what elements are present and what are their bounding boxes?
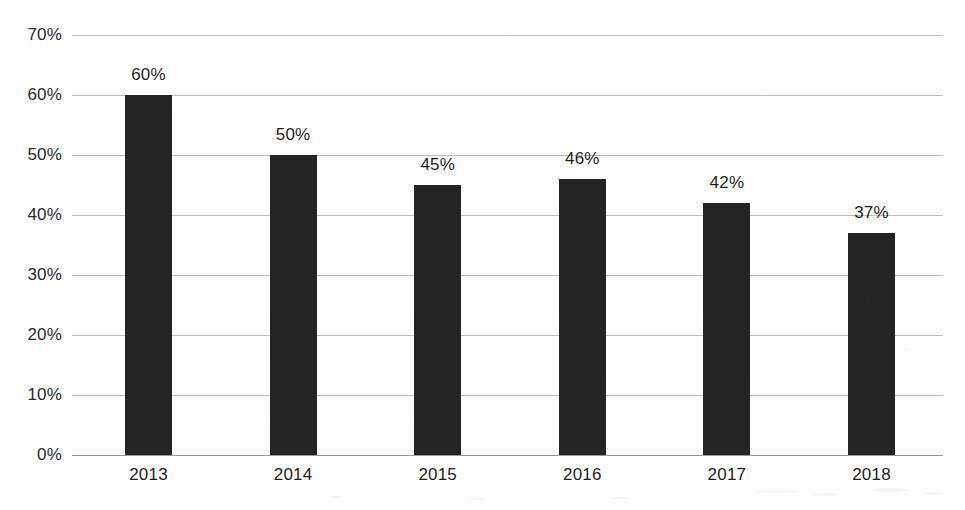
bar-value-label-2015: 45% — [420, 155, 455, 175]
scan-speckle — [874, 488, 908, 492]
bar-value-label-2016: 46% — [565, 149, 600, 169]
chart-page: 0%10%20%30%40%50%60%70% 60%50%45%46%42%3… — [0, 0, 965, 510]
bar-2017[interactable] — [703, 203, 750, 455]
bar-2018[interactable] — [848, 233, 895, 455]
gridline-40 — [72, 215, 943, 216]
scan-speckle — [330, 496, 342, 498]
y-axis-tick-label: 30% — [0, 265, 62, 285]
y-axis-tick-label: 50% — [0, 145, 62, 165]
y-axis-tick-label: 10% — [0, 385, 62, 405]
bar-2016[interactable] — [559, 179, 606, 455]
gridline-70 — [72, 35, 943, 36]
x-axis-category-label-2016: 2016 — [563, 465, 602, 485]
y-axis-tick-label: 40% — [0, 205, 62, 225]
y-axis-tick-label: 0% — [0, 445, 62, 465]
gridline-0 — [72, 455, 943, 456]
bar-value-label-2018: 37% — [854, 203, 889, 223]
bar-value-label-2017: 42% — [710, 173, 745, 193]
y-axis-tick-label: 20% — [0, 325, 62, 345]
bar-value-label-2013: 60% — [131, 65, 166, 85]
scan-speckle — [612, 497, 630, 499]
scan-speckle — [470, 498, 484, 500]
bar-2013[interactable] — [125, 95, 172, 455]
y-axis-tick-label: 60% — [0, 85, 62, 105]
gridline-20 — [72, 335, 943, 336]
scan-speckle — [757, 490, 797, 493]
y-axis-tick-label: 70% — [0, 25, 62, 45]
plot-area — [72, 35, 943, 455]
x-axis-category-label-2018: 2018 — [852, 465, 891, 485]
gridline-10 — [72, 395, 943, 396]
bar-2014[interactable] — [270, 155, 317, 455]
scan-speckle — [925, 492, 945, 495]
x-axis-category-label-2014: 2014 — [274, 465, 313, 485]
gridline-50 — [72, 155, 943, 156]
x-axis-category-label-2013: 2013 — [129, 465, 168, 485]
bar-value-label-2014: 50% — [276, 125, 311, 145]
x-axis-category-label-2017: 2017 — [708, 465, 747, 485]
bar-2015[interactable] — [414, 185, 461, 455]
gridline-60 — [72, 95, 943, 96]
gridline-30 — [72, 275, 943, 276]
x-axis-category-label-2015: 2015 — [418, 465, 457, 485]
scan-speckle — [812, 493, 838, 496]
scan-speckle — [905, 348, 908, 351]
scan-speckle — [866, 300, 869, 303]
